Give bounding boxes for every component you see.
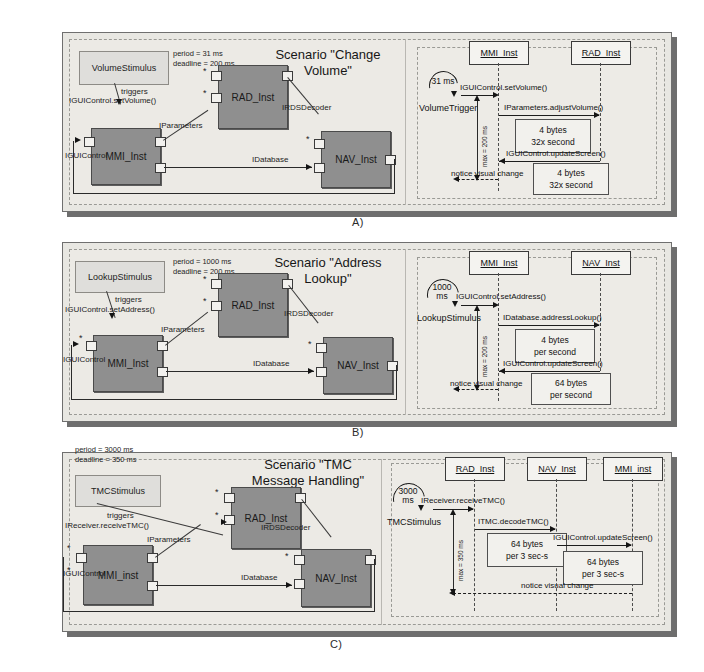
component-label-mmi-b: MMI_Inst bbox=[107, 358, 148, 369]
connector-label-triggers-b: triggers bbox=[115, 295, 142, 305]
connector-iguicontrol-c-h1 bbox=[63, 611, 375, 612]
connector-label-receivetmc-c: IReceiver.receiveTMC() bbox=[65, 521, 149, 531]
seq-msg-label-c-4: notice visual change bbox=[521, 581, 594, 590]
seq-note-b-2-line2: per second bbox=[550, 389, 592, 401]
stimulus-box-c: TMCStimulus bbox=[75, 475, 161, 507]
connector-label-idatabase-a: IDatabase bbox=[252, 155, 288, 165]
seq-msg-arrow-c-3 bbox=[626, 542, 632, 548]
seq-msg-arrow-b-3 bbox=[499, 368, 505, 374]
multiplicity-star-c-3: * bbox=[67, 543, 71, 553]
seq-trigger-name-a: VolumeTrigger bbox=[419, 103, 477, 113]
seq-note-b-1: 4 bytes per second bbox=[515, 329, 595, 363]
seq-deadline-label-b: max = 200 ms bbox=[481, 336, 488, 377]
seq-note-b-2: 64 bytes per second bbox=[531, 373, 611, 405]
multiplicity-star-b-3: * bbox=[79, 333, 83, 343]
panel-letter-b: B) bbox=[352, 426, 364, 438]
component-label-nav-a: NAV_Inst bbox=[335, 154, 377, 165]
seq-note-a-1: 4 bytes 32x second bbox=[515, 119, 591, 153]
arrow-iguicontrol-b bbox=[73, 341, 79, 347]
seq-trigger-name-b: LookupStimulus bbox=[417, 313, 481, 323]
connector-iguicontrol-c-v2 bbox=[63, 557, 64, 612]
stimulus-label-a: VolumeStimulus bbox=[92, 63, 157, 73]
scenario-title-c: Scenario "TMC Message Handling" bbox=[233, 457, 383, 490]
seq-msg-arrow-c-1 bbox=[468, 506, 474, 512]
arrow-trigger-c bbox=[221, 519, 227, 525]
multiplicity-star-c-5: * bbox=[285, 551, 289, 561]
seq-deadline-label-c: max = 350 ms bbox=[457, 540, 464, 581]
port-nav-a-2 bbox=[314, 163, 325, 173]
connector-iguicontrol-b-v1 bbox=[396, 365, 397, 400]
component-rad-b: RAD_Inst bbox=[218, 273, 288, 337]
port-mmi-a-3 bbox=[155, 163, 166, 173]
arrow-idatabase-a bbox=[306, 164, 312, 170]
port-mmi-a-1 bbox=[84, 137, 95, 147]
connector-label-iguicontrol-b: IGUIControl bbox=[63, 355, 105, 365]
seq-actor-label-c-mmi: MMI_inst bbox=[615, 464, 652, 474]
seq-msg-arrow-a-2 bbox=[594, 112, 600, 118]
seq-actor-c-rad: RAD_Inst bbox=[445, 457, 505, 481]
connector-iguicontrol-b-v2 bbox=[71, 345, 72, 400]
component-rad-a: RAD_Inst bbox=[218, 65, 288, 129]
seq-actor-a-mmi: MMI_Inst bbox=[469, 41, 529, 65]
seq-msg-c-4 bbox=[453, 593, 632, 594]
seq-note-c-1-line2: per 3 sec-s bbox=[506, 550, 548, 562]
seq-trigger-value-b: 1000 ms bbox=[427, 283, 457, 302]
seq-deadline-line-a bbox=[477, 97, 478, 179]
multiplicity-star-a-1: * bbox=[203, 66, 207, 76]
seq-note-a-2-line1: 4 bytes bbox=[557, 167, 584, 179]
connector-label-iparameters-b: IParameters bbox=[161, 325, 205, 335]
component-label-nav-c: NAV_Inst bbox=[315, 573, 357, 584]
seq-deadline-arrow-a-top bbox=[474, 95, 480, 101]
multiplicity-star-b-1: * bbox=[203, 274, 207, 284]
multiplicity-star-c-1: * bbox=[215, 487, 219, 497]
stimulus-box-b: LookupStimulus bbox=[75, 261, 165, 293]
seq-deadline-arrow-c-bot bbox=[450, 589, 456, 595]
connector-label-irdsdecoder-b: IRDSDecoder bbox=[284, 309, 333, 319]
seq-actor-label-c-nav: NAV_Inst bbox=[538, 464, 575, 474]
port-nav-b-1 bbox=[316, 343, 327, 353]
port-mmi-b-3 bbox=[157, 367, 168, 377]
seq-msg-label-a-3: IGUIControl.updateScreen() bbox=[506, 149, 606, 158]
connector-iguicontrol-c-v1 bbox=[374, 559, 375, 612]
connector-label-iguicontrol-c: IGUIControl bbox=[63, 569, 105, 579]
connector-idatabase-c bbox=[156, 585, 292, 586]
panel-c: period = 3000 ms deadline = 350 ms TMCSt… bbox=[62, 452, 672, 632]
seq-note-b-1-line2: per second bbox=[534, 346, 576, 358]
connector-label-irdsdecoder-a: IRDSDecoder bbox=[282, 103, 331, 113]
connector-label-iparameters-c: IParameters bbox=[147, 535, 191, 545]
seq-actor-label-c-rad: RAD_Inst bbox=[456, 464, 495, 474]
seq-msg-arrow-a-1 bbox=[493, 92, 499, 98]
seq-note-a-2-line2: 32x second bbox=[549, 179, 592, 191]
seq-note-c-1-line1: 64 bytes bbox=[511, 538, 543, 550]
connector-label-iguicontrol-a: IGUIControl bbox=[65, 151, 107, 161]
seq-msg-a-2 bbox=[499, 115, 599, 116]
seq-actor-c-mmi: MMI_inst bbox=[603, 457, 663, 481]
seq-note-c-2-line2: per 3 sec-s bbox=[582, 568, 624, 580]
seq-deadline-label-a: max = 200 ms bbox=[481, 126, 488, 167]
multiplicity-star-a-3: * bbox=[306, 134, 310, 144]
seq-msg-arrow-c-2 bbox=[550, 526, 556, 532]
component-label-rad-b: RAD_Inst bbox=[232, 300, 275, 311]
component-rad-c: RAD_Inst bbox=[231, 487, 301, 549]
panel-letter-a: A) bbox=[352, 216, 364, 228]
port-mmi-c-3 bbox=[147, 581, 158, 591]
port-rad-c-1 bbox=[224, 493, 235, 503]
seq-deadline-arrow-b-top bbox=[474, 305, 480, 311]
seq-note-a-1-line1: 4 bytes bbox=[539, 124, 566, 136]
multiplicity-star-b-2: * bbox=[203, 296, 207, 306]
seq-trigger-value-c: 3000 ms bbox=[393, 487, 423, 506]
panel-b-divider bbox=[405, 249, 406, 415]
connector-label-setvolume-a: IGUIControl.setVolume() bbox=[69, 96, 156, 106]
seq-actor-label-b-mmi: MMI_Inst bbox=[480, 258, 517, 268]
seq-msg-label-a-4: notice visual change bbox=[451, 169, 524, 178]
connector-iguicontrol-a-v1 bbox=[394, 159, 395, 194]
seq-actor-c-nav: NAV_Inst bbox=[527, 457, 587, 481]
connector-idatabase-b bbox=[166, 371, 314, 372]
seq-msg-c-3 bbox=[557, 545, 631, 546]
panel-a-divider bbox=[405, 39, 406, 205]
component-label-nav-b: NAV_Inst bbox=[337, 360, 379, 371]
timing-meta-c: period = 3000 ms deadline = 350 ms bbox=[75, 445, 137, 465]
seq-actor-a-rad: RAD_Inst bbox=[571, 41, 631, 65]
port-rad-b-1 bbox=[211, 279, 222, 289]
seq-note-b-1-line1: 4 bytes bbox=[541, 334, 568, 346]
